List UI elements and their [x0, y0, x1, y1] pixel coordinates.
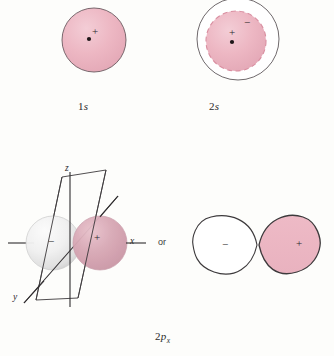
z-axis-label: z — [65, 163, 69, 173]
two-d-minus-sign: − — [222, 239, 228, 250]
one-s-caption-letter: s — [84, 100, 89, 112]
two-s-minus-sign: − — [244, 17, 250, 28]
two-p-x-caption: 2px — [155, 330, 170, 345]
two-s-nucleus-dot — [230, 40, 234, 44]
one-s-plus-sign: + — [92, 26, 98, 37]
positive-lobe-sphere — [73, 216, 127, 270]
positive-lobe-teardrop — [259, 215, 320, 273]
y-axis-tip — [100, 196, 118, 217]
two-s-orbital-graphic — [197, 0, 279, 80]
orbital-figure: + + − − + − + z y x or 1s 2s 2px — [0, 0, 334, 356]
two-p-x-caption-subscript: x — [167, 336, 171, 345]
two-p-x-three-d-view — [8, 170, 146, 307]
two-s-caption: 2s — [209, 100, 219, 112]
one-s-orbital-graphic — [0, 0, 334, 356]
two-d-plus-sign: + — [296, 238, 302, 249]
one-s-nucleus-dot — [87, 37, 91, 41]
two-s-plus-sign: + — [229, 27, 235, 38]
x-axis-label: x — [130, 236, 134, 246]
two-s-caption-letter: s — [215, 100, 220, 112]
y-axis-label: y — [13, 292, 17, 302]
one-s-sphere — [62, 8, 126, 72]
one-s-caption: 1s — [78, 100, 88, 112]
two-s-inner-sphere — [206, 11, 266, 71]
three-d-plus-sign: + — [94, 232, 100, 243]
or-connector-label: or — [158, 237, 166, 247]
three-d-minus-sign: − — [48, 236, 54, 247]
